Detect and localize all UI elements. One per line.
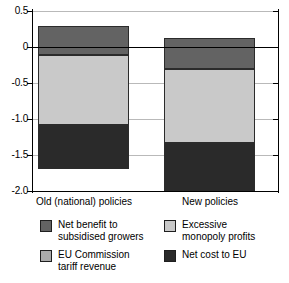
bar-segment-eu-commission-tariff-revenue[interactable]	[38, 55, 129, 125]
y-tick-label--0.5: -0.5	[0, 78, 28, 88]
legend-label-tariff-revenue: EU Commission tariff revenue	[58, 249, 130, 272]
gridline-0.5	[33, 11, 279, 12]
zero-line	[33, 47, 279, 48]
bar-segment-net-benefit-to-subsidised-growers[interactable]	[164, 38, 255, 69]
x-axis-label-old-national-policies: Old (national) policies	[20, 196, 148, 207]
y-tick-label-0: 0	[0, 42, 28, 52]
x-axis-label-new-policies: New policies	[150, 196, 270, 207]
axis-baseline	[33, 191, 279, 192]
legend-item-net-cost[interactable]: Net cost to EU	[164, 249, 286, 262]
y-tick-label--1.0: -1.0	[0, 114, 28, 124]
tick-right-0.5	[273, 11, 279, 12]
legend-swatch-tariff-revenue-icon	[40, 250, 52, 262]
legend-label-net-cost: Net cost to EU	[182, 249, 246, 261]
legend-swatch-monopoly-profits-icon	[164, 220, 176, 232]
stacked-bar-chart: 0.5 0 -0.5 -1.0 -1.5 -2.0 Old (national)…	[0, 0, 289, 283]
legend-swatch-net-benefit-icon	[40, 220, 52, 232]
legend-label-net-benefit: Net benefit to subsidised growers	[58, 219, 144, 242]
y-tick-label--2.0: -2.0	[0, 186, 28, 196]
bar-segment-net-cost-to-eu[interactable]	[38, 125, 129, 169]
y-axis-right	[278, 9, 279, 193]
legend-swatch-net-cost-icon	[164, 250, 176, 262]
bar-segment-net-benefit-to-subsidised-growers[interactable]	[38, 26, 129, 55]
tick-right--1.5	[273, 155, 279, 156]
y-axis-left	[32, 9, 33, 193]
bar-segment-eu-commission-tariff-revenue[interactable]	[164, 69, 255, 143]
chart-legend: Net benefit to subsidised growers Excess…	[40, 219, 286, 281]
legend-item-net-benefit[interactable]: Net benefit to subsidised growers	[40, 219, 160, 242]
legend-label-monopoly-profits: Excessive monopoly profits	[182, 219, 255, 242]
legend-item-monopoly-profits[interactable]: Excessive monopoly profits	[164, 219, 286, 242]
tick-right--1.0	[273, 119, 279, 120]
y-tick-label--1.5: -1.5	[0, 150, 28, 160]
legend-item-tariff-revenue[interactable]: EU Commission tariff revenue	[40, 249, 160, 272]
bar-segment-net-cost-to-eu[interactable]	[164, 143, 255, 191]
tick-right--0.5	[273, 83, 279, 84]
bar-new-policies[interactable]	[164, 38, 255, 191]
y-tick-label-0.5: 0.5	[0, 6, 28, 16]
